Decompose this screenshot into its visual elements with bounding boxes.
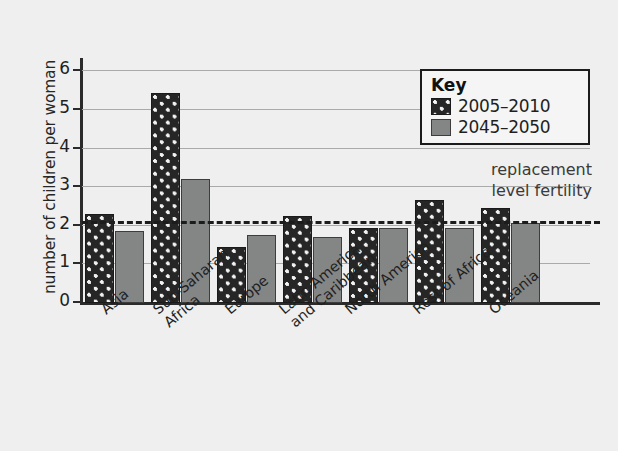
chart-canvas: number of children per woman 0123456 Asi… [0, 0, 618, 451]
y-tick [73, 301, 82, 303]
bar [85, 214, 114, 303]
y-tick-label: 5 [46, 97, 70, 117]
x-axis-labels: AsiaSub-Saharan AfricaEuropeLatin Americ… [80, 305, 618, 451]
legend-label-2005-2010: 2005–2010 [458, 96, 550, 116]
legend-box: Key 2005–2010 2045–2050 [420, 69, 590, 145]
y-tick-label: 2 [46, 213, 70, 233]
legend-item-2005-2010: 2005–2010 [431, 96, 580, 116]
y-tick [73, 224, 82, 226]
y-tick [73, 262, 82, 264]
replacement-level-line [82, 221, 600, 224]
y-tick-label: 1 [46, 251, 70, 271]
y-tick [73, 147, 82, 149]
legend-swatch-dotted-icon [431, 98, 451, 115]
legend-swatch-solid-icon [431, 119, 451, 136]
y-tick [73, 108, 82, 110]
y-tick-label: 0 [46, 290, 70, 310]
legend-title: Key [431, 75, 580, 95]
y-tick-label: 3 [46, 174, 70, 194]
y-tick-label: 6 [46, 58, 70, 78]
legend-item-2045-2050: 2045–2050 [431, 117, 580, 137]
y-axis-line [80, 58, 83, 303]
y-tick-label: 4 [46, 136, 70, 156]
legend-label-2045-2050: 2045–2050 [458, 117, 550, 137]
bar [151, 93, 180, 303]
replacement-level-annotation: replacement level fertility [400, 159, 592, 201]
y-tick [73, 185, 82, 187]
y-tick [73, 69, 82, 71]
